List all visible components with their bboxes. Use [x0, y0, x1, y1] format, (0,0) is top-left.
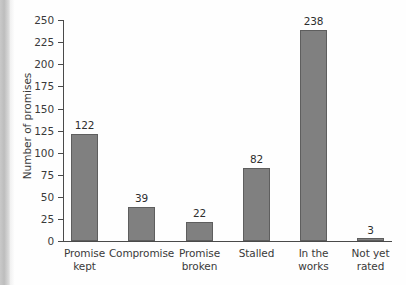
- x-category-label-promise-broken: Promise broken: [172, 247, 227, 273]
- bar-compromise[interactable]: [128, 207, 155, 241]
- y-tick-label-200: 200: [14, 59, 54, 69]
- y-tick-label-75: 75: [14, 170, 54, 180]
- x-category-label-not-yet-rated: Not yet rated: [343, 247, 398, 273]
- x-category-label-line2: works: [286, 260, 341, 273]
- bar-value-stalled: 82: [233, 154, 280, 165]
- y-tick-150: [58, 109, 63, 110]
- y-tick-0: [58, 241, 63, 242]
- bar-stalled[interactable]: [243, 168, 270, 241]
- y-tick-label-100: 100: [14, 148, 54, 158]
- x-category-label-line2: broken: [172, 260, 227, 273]
- bar-value-in-the-works: 238: [290, 16, 337, 27]
- y-tick-75: [58, 175, 63, 176]
- x-category-label-line2: rated: [343, 260, 398, 273]
- y-tick-label-25: 25: [14, 214, 54, 224]
- y-tick-label-175: 175: [14, 81, 54, 91]
- x-category-label-promise-kept: Promise kept: [57, 247, 112, 273]
- y-tick-125: [58, 131, 63, 132]
- chart-screenshot: Number of promises 250 225 200 175 150 1…: [0, 0, 406, 285]
- bar-value-promise-broken: 22: [176, 208, 223, 219]
- x-category-label-line1: Promise: [172, 247, 227, 260]
- y-tick-label-225: 225: [14, 37, 54, 47]
- bar-value-compromise: 39: [118, 193, 165, 204]
- x-axis-line: [63, 241, 392, 242]
- y-axis-line: [63, 20, 64, 242]
- y-tick-25: [58, 219, 63, 220]
- x-category-label-line1: In the: [286, 247, 341, 260]
- y-tick-225: [58, 42, 63, 43]
- y-tick-200: [58, 64, 63, 65]
- x-category-label-line2: kept: [57, 260, 112, 273]
- bar-value-not-yet-rated: 3: [347, 225, 394, 236]
- y-tick-label-0: 0: [14, 236, 54, 246]
- x-category-label-line1: Promise: [57, 247, 112, 260]
- x-category-label-line1: Not yet: [343, 247, 398, 260]
- bar-promise-kept[interactable]: [71, 134, 98, 241]
- y-tick-100: [58, 153, 63, 154]
- bar-value-promise-kept: 122: [61, 120, 108, 131]
- x-category-label-in-the-works: In the works: [286, 247, 341, 273]
- y-tick-175: [58, 86, 63, 87]
- y-tick-label-50: 50: [14, 192, 54, 202]
- bar-promise-broken[interactable]: [186, 222, 213, 241]
- x-category-label-stalled: Stalled: [229, 247, 284, 260]
- x-category-label-line1: Compromise: [108, 247, 175, 260]
- y-tick-label-125: 125: [14, 126, 54, 136]
- bar-not-yet-rated[interactable]: [357, 238, 384, 241]
- y-tick-label-250: 250: [14, 15, 54, 25]
- bar-in-the-works[interactable]: [300, 30, 327, 241]
- y-tick-label-150: 150: [14, 104, 54, 114]
- x-category-label-line1: Stalled: [229, 247, 284, 260]
- y-tick-50: [58, 197, 63, 198]
- y-tick-250: [58, 20, 63, 21]
- bar-chart-plot: Number of promises 250 225 200 175 150 1…: [0, 0, 406, 285]
- x-category-label-compromise: Compromise: [108, 247, 175, 260]
